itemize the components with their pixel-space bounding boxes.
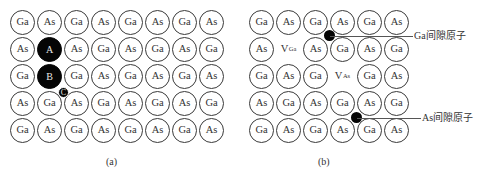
atom-as: As — [10, 91, 35, 116]
atom-ga: Ga — [172, 10, 197, 35]
atom-c-small: C — [58, 87, 69, 98]
atom-as: As — [145, 10, 170, 35]
atom-ga: Ga — [384, 91, 409, 116]
atom-as: As — [172, 37, 197, 62]
atom-as: As — [91, 10, 116, 35]
atom-ga: Ga — [249, 10, 274, 35]
atom-ga: Ga — [199, 91, 224, 116]
caption-a: (a) — [106, 157, 117, 167]
atom-ga: Ga — [145, 37, 170, 62]
atom-ga: Ga — [172, 64, 197, 89]
vacancy-symbol: V — [335, 71, 343, 82]
atom-as: As — [249, 91, 274, 116]
atom-as: As — [276, 64, 301, 89]
atom-as: As — [276, 118, 301, 143]
atom-ga: Ga — [10, 64, 35, 89]
atom-as: As — [91, 118, 116, 143]
atom-as: As — [145, 118, 170, 143]
atom-ga: Ga — [249, 64, 274, 89]
atom-as: As — [172, 91, 197, 116]
atom-ga: Ga — [199, 37, 224, 62]
atom-as: As — [64, 37, 89, 62]
atom-ga: Ga — [357, 118, 382, 143]
atom-ga: Ga — [276, 91, 301, 116]
atom-ga: Ga — [64, 64, 89, 89]
vacancy-subscript: Ga — [289, 46, 297, 53]
atom-as: As — [91, 64, 116, 89]
atom-a-highlighted: A — [37, 37, 62, 62]
atom-as: As — [199, 10, 224, 35]
as-interstitial-leader-line — [357, 118, 421, 119]
atom-as: As — [384, 118, 409, 143]
atom-ga: Ga — [172, 118, 197, 143]
atom-ga: Ga — [330, 37, 355, 62]
atom-as: As — [384, 64, 409, 89]
atom-as: As — [199, 118, 224, 143]
atom-as: As — [249, 37, 274, 62]
atom-as: As — [357, 91, 382, 116]
atom-as: As — [303, 91, 328, 116]
atom-ga: Ga — [91, 91, 116, 116]
atom-ga: Ga — [303, 118, 328, 143]
atom-ga: Ga — [330, 91, 355, 116]
atom-ga: Ga — [303, 64, 328, 89]
atom-ga: Ga — [357, 64, 382, 89]
atom-ga: Ga — [10, 118, 35, 143]
atom-as: As — [118, 91, 143, 116]
atom-as: As — [37, 10, 62, 35]
atom-b-highlighted: B — [37, 64, 62, 89]
atom-as: As — [199, 64, 224, 89]
atom-ga: Ga — [384, 37, 409, 62]
atom-ga: Ga — [64, 118, 89, 143]
atom-ga: Ga — [118, 64, 143, 89]
vacancy-ga: VGa — [276, 37, 301, 62]
caption-b: (b) — [318, 157, 330, 167]
atom-ga: Ga — [10, 10, 35, 35]
atom-as: As — [330, 118, 355, 143]
vacancy-as: VAs — [330, 64, 355, 89]
ga-interstitial-label: Ga间隙原子 — [414, 31, 466, 41]
atom-as: As — [118, 37, 143, 62]
atom-ga: Ga — [145, 91, 170, 116]
atom-ga: Ga — [64, 10, 89, 35]
atom-as: As — [145, 64, 170, 89]
atom-as: As — [10, 37, 35, 62]
vacancy-symbol: V — [281, 44, 289, 55]
atom-as: As — [276, 10, 301, 35]
ga-interstitial-leader-line — [330, 36, 413, 37]
atom-ga: Ga — [91, 37, 116, 62]
vacancy-subscript: As — [343, 73, 350, 80]
atom-as: As — [37, 118, 62, 143]
atom-as: As — [303, 37, 328, 62]
atom-ga: Ga — [357, 10, 382, 35]
atom-as: As — [384, 10, 409, 35]
as-interstitial-label: As间隙原子 — [422, 113, 473, 123]
atom-ga: Ga — [249, 118, 274, 143]
atom-ga: Ga — [118, 118, 143, 143]
atom-as: As — [357, 37, 382, 62]
atom-ga: Ga — [118, 10, 143, 35]
